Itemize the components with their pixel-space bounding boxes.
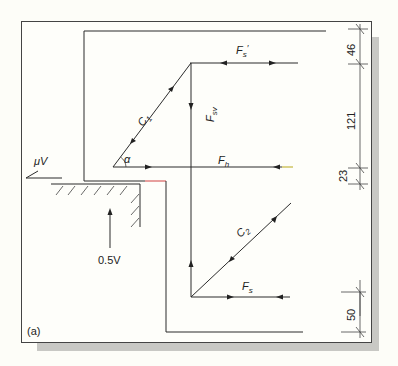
dimension-121: 121 xyxy=(345,112,357,130)
dimension-46: 46 xyxy=(345,44,357,56)
strut-and-tie-diagram: μV 0.5V Fs′ C1 Fsv xyxy=(0,0,398,366)
panel-label: (a) xyxy=(27,325,40,337)
frame-shadow-right xyxy=(372,37,379,351)
angle-label: α xyxy=(124,153,131,165)
dimension-50: 50 xyxy=(345,309,357,321)
frame-shadow-bottom xyxy=(37,343,376,351)
figure-frame xyxy=(22,22,372,343)
support-reaction-label: 0.5V xyxy=(98,254,121,266)
dimension-23: 23 xyxy=(337,170,349,182)
friction-force-label: μV xyxy=(33,155,49,167)
